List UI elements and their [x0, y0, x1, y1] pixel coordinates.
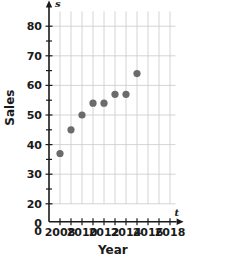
data-point — [89, 100, 96, 107]
x-axis-tick-label: 2018 — [155, 226, 186, 239]
y-axis-tick-label: 20 — [27, 198, 43, 211]
y-axis-tick-label: 50 — [27, 109, 43, 122]
x-axis-variable-label: t — [175, 207, 180, 218]
origin-label: 0 — [34, 217, 42, 230]
data-point — [78, 111, 85, 118]
y-axis-tick-label: 30 — [27, 168, 43, 181]
y-axis-tick-label: 60 — [27, 79, 43, 92]
x-axis-title: Year — [97, 243, 128, 257]
data-point — [56, 150, 63, 157]
data-point — [111, 91, 118, 98]
data-point — [100, 100, 107, 107]
y-axis-tick-label: 70 — [27, 50, 43, 63]
data-point — [122, 91, 129, 98]
chart-canvas: 0203040506070802008201020122014201620180… — [0, 0, 250, 264]
y-axis-title: Sales — [3, 90, 17, 126]
y-axis-arrow — [46, 0, 52, 7]
y-axis-variable-label: s — [55, 0, 61, 9]
y-axis-tick-label: 40 — [27, 139, 43, 152]
scatter-plot-figure: 0203040506070802008201020122014201620180… — [0, 0, 250, 264]
data-point — [133, 70, 140, 77]
y-axis-tick-label: 80 — [27, 20, 43, 33]
data-point — [67, 126, 74, 133]
x-axis-arrow — [177, 219, 184, 225]
